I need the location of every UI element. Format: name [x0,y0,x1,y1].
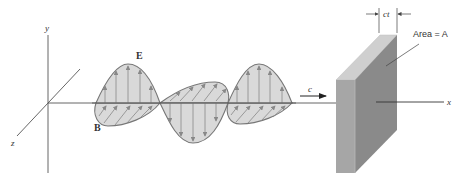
area-label: Area = A [413,29,448,39]
speed-label: c [308,84,312,94]
electric-field-wave [92,64,296,143]
y-axis-label: y [44,23,49,33]
thickness-label: ct [383,9,390,19]
em-wave-diagram: y z [0,0,462,184]
slab-side-face [336,80,355,173]
z-axis [17,69,80,136]
propagation-arrow: c [300,84,326,96]
diagram-canvas: y z [0,0,462,184]
slab [336,35,397,173]
b-field-label: B [94,122,101,133]
b-lobe-2 [160,82,229,103]
thickness-dimension: ct [366,8,411,33]
z-axis-label: z [10,138,15,148]
x-axis-label: x [446,97,451,107]
e-field-label: E [136,50,143,61]
